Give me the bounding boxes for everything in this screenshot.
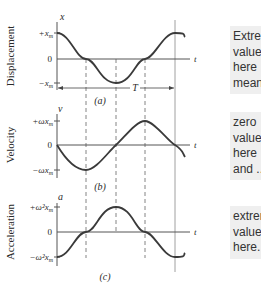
var-label-v: v: [58, 103, 63, 114]
note-line: zero: [233, 115, 261, 131]
note-line: Extreme: [233, 29, 261, 45]
t-label: t: [194, 140, 197, 150]
axis-label-displacement: Displacement: [4, 26, 16, 86]
note-line: and ...: [233, 162, 261, 178]
caption-b: (b): [94, 181, 106, 193]
tick-bottom: −ω²xm: [30, 252, 54, 263]
shm-diagram: Displacement x +xm 0 −xm t T (a) Velocit…: [0, 0, 261, 284]
guide-lines: [86, 20, 175, 272]
note-line: extreme: [233, 209, 261, 225]
note-line: here: [233, 60, 261, 76]
tick-top: +xm: [39, 28, 54, 39]
panel-velocity: Velocity v +ωxm 0 −ωxm t (b): [4, 103, 197, 193]
note-acceleration: extreme values here.: [230, 206, 261, 259]
tick-bottom: −ωxm: [32, 165, 53, 176]
note-line: values: [233, 131, 261, 147]
note-line: here.: [233, 240, 261, 256]
tick-top: +ω²xm: [30, 202, 54, 213]
note-line: mean ...: [233, 76, 261, 92]
tick-bottom: −xm: [39, 78, 54, 89]
axis-label-acceleration: Acceleration: [4, 203, 16, 260]
note-displacement: Extreme values here mean ...: [230, 26, 261, 94]
tick-zero: 0: [48, 227, 53, 237]
note-line: here: [233, 146, 261, 162]
caption-c: (c): [99, 271, 111, 283]
t-label: t: [194, 54, 197, 64]
axis-label-velocity: Velocity: [4, 126, 16, 163]
var-label-x: x: [59, 11, 65, 22]
note-velocity: zero values here and ...: [230, 112, 261, 180]
note-line: values: [233, 45, 261, 61]
var-label-a: a: [58, 191, 63, 202]
note-line: values: [233, 225, 261, 241]
caption-a: (a): [94, 95, 106, 107]
panel-acceleration: Acceleration a +ω²xm 0 −ω²xm t (c): [4, 191, 197, 283]
tick-zero: 0: [48, 140, 53, 150]
panel-displacement: Displacement x +xm 0 −xm t T (a): [4, 11, 197, 107]
displacement-curve: [57, 33, 185, 83]
t-label: t: [194, 227, 197, 237]
tick-zero: 0: [48, 54, 53, 64]
tick-top: +ωxm: [32, 116, 53, 127]
